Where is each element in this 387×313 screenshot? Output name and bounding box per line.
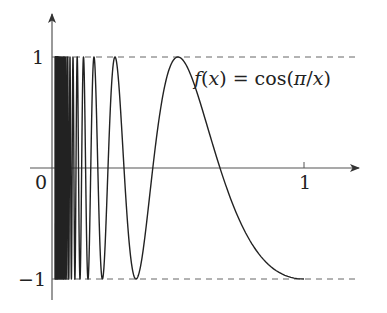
y-tick-label-neg1: −1 <box>18 268 46 290</box>
y-tick-label-1: 1 <box>32 46 44 68</box>
x-tick-label-0: 0 <box>35 171 47 193</box>
chart-canvas: 0 1 1 −1 f(x) = cos(π/x) <box>0 0 387 313</box>
function-label: f(x) = cos(π/x) <box>192 67 331 89</box>
x-tick-label-1: 1 <box>299 171 311 193</box>
